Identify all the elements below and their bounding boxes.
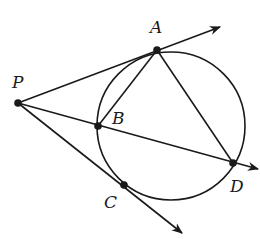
- label-D: D: [229, 176, 244, 196]
- point-D: [229, 159, 237, 167]
- label-A: A: [148, 17, 162, 37]
- tangent-PA-ray: [18, 27, 220, 103]
- geometry-diagram: PABCD: [0, 0, 260, 239]
- label-P: P: [11, 72, 24, 92]
- label-C: C: [104, 192, 117, 212]
- point-B: [94, 122, 102, 130]
- point-P: [14, 99, 22, 107]
- secant-PBD-ray: [18, 103, 258, 169]
- chord-AD: [157, 50, 233, 163]
- point-A: [153, 46, 161, 54]
- label-B: B: [111, 108, 125, 128]
- point-C: [120, 181, 128, 189]
- diagram-canvas: PABCD: [0, 0, 260, 239]
